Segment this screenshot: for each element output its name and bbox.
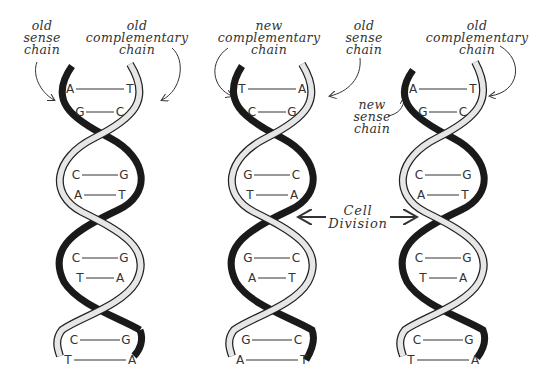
base-left: A — [417, 188, 426, 202]
base-left: C — [413, 333, 421, 347]
base-right: T — [468, 82, 477, 96]
base-pair: CG — [70, 333, 131, 347]
helix-middle — [229, 64, 313, 360]
base-right: A — [459, 271, 468, 285]
base-pair: AT — [74, 188, 126, 202]
base-left: T — [245, 188, 254, 202]
base-right: C — [294, 333, 302, 347]
base-left: T — [406, 353, 415, 367]
base-pair: CG — [72, 251, 129, 265]
base-left: C — [72, 251, 80, 265]
base-right: C — [459, 105, 467, 119]
base-pair: TA — [418, 271, 468, 285]
base-pair: AT — [248, 271, 296, 285]
base-left: A — [236, 353, 245, 367]
base-left: A — [409, 82, 418, 96]
base-left: C — [248, 105, 256, 119]
base-left: C — [415, 251, 423, 265]
base-left: G — [418, 105, 427, 119]
base-left: G — [243, 251, 252, 265]
arrow-left-complementary — [162, 48, 180, 100]
base-right: C — [116, 105, 124, 119]
base-left: T — [75, 271, 84, 285]
base-right: T — [125, 82, 134, 96]
base-pair: CG — [413, 333, 474, 347]
base-left: C — [415, 168, 423, 182]
base-left: T — [418, 271, 427, 285]
base-right: A — [116, 271, 125, 285]
arrow-middle-complementary — [215, 48, 232, 96]
base-pair: TA — [75, 271, 125, 285]
base-pair: AT — [417, 188, 469, 202]
base-pair: CG — [415, 168, 472, 182]
base-pair: AT — [66, 82, 134, 96]
base-left: T — [63, 353, 72, 367]
base-pair: TA — [63, 353, 137, 367]
base-right: G — [121, 333, 130, 347]
base-pair: AT — [236, 353, 308, 367]
base-right: T — [460, 188, 469, 202]
base-pair: GC — [75, 105, 124, 119]
base-right: T — [299, 353, 308, 367]
base-pair: CG — [248, 105, 297, 119]
arrow-right-complementary — [490, 46, 516, 96]
base-right: C — [292, 251, 300, 265]
base-left: G — [75, 105, 84, 119]
base-left: A — [74, 188, 83, 202]
dna-diagram: ATGCCGATCGTACGTATACGGCTAGCATGCATATGCCGAT… — [0, 0, 545, 391]
base-left: T — [237, 82, 246, 96]
base-right: G — [119, 168, 128, 182]
base-left: C — [72, 168, 80, 182]
base-pair: GC — [243, 251, 300, 265]
base-right: G — [287, 105, 296, 119]
base-right: C — [292, 168, 300, 182]
base-right: A — [298, 82, 307, 96]
arrow-middle-sense — [330, 58, 360, 96]
helix-right — [400, 62, 484, 358]
base-pair: CG — [415, 251, 472, 265]
base-left: A — [66, 82, 75, 96]
base-left: A — [248, 271, 257, 285]
base-right: A — [471, 353, 480, 367]
base-right: G — [119, 251, 128, 265]
base-right: A — [128, 353, 137, 367]
base-pair: TA — [245, 188, 299, 202]
base-pair: GC — [418, 105, 467, 119]
arrow-left-sense — [36, 62, 54, 100]
base-left: G — [241, 333, 250, 347]
arrow-right-new-sense — [388, 98, 404, 116]
base-pair: TA — [237, 82, 307, 96]
base-pair: GC — [243, 168, 300, 182]
helix-left — [57, 64, 141, 356]
base-pair: CG — [72, 168, 129, 182]
base-pair: TA — [406, 353, 480, 367]
base-right: T — [117, 188, 126, 202]
base-left: G — [243, 168, 252, 182]
base-right: A — [290, 188, 299, 202]
base-left: C — [70, 333, 78, 347]
base-right: G — [462, 168, 471, 182]
base-right: T — [287, 271, 296, 285]
base-right: G — [464, 333, 473, 347]
base-pair: AT — [409, 82, 477, 96]
base-pair: GC — [241, 333, 302, 347]
base-right: G — [462, 251, 471, 265]
